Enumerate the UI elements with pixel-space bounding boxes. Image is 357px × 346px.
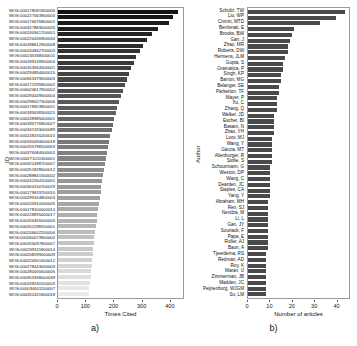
tick-mark: [85, 300, 86, 302]
bar: [58, 230, 95, 234]
bar: [248, 85, 279, 89]
bar: [58, 196, 100, 200]
bar: [248, 177, 270, 181]
bar: [58, 179, 102, 183]
bar: [58, 27, 158, 31]
panel-a-caption: a): [0, 323, 190, 333]
bar: [248, 96, 277, 100]
bar: [58, 77, 127, 81]
bar: [248, 114, 274, 118]
bar: [248, 142, 272, 146]
bar: [248, 102, 277, 106]
x-axis-ticks-b: 010203040: [247, 300, 350, 310]
bar: [248, 125, 274, 129]
bar: [58, 32, 152, 36]
bar: [58, 140, 109, 144]
bar: [248, 258, 266, 262]
bar: [248, 67, 283, 71]
tick-mark: [337, 300, 338, 302]
bar: [248, 240, 268, 244]
bar: [248, 171, 270, 175]
bar: [58, 156, 106, 160]
tick-label: 20: [289, 303, 295, 309]
bar: [248, 44, 288, 48]
tick-label: 10: [266, 303, 272, 309]
bar: [58, 15, 173, 19]
bar: [248, 137, 272, 141]
tick-label: 0: [55, 303, 58, 309]
bar: [248, 10, 345, 14]
bar: [248, 212, 268, 216]
bar: [248, 50, 288, 54]
bar: [248, 79, 281, 83]
bar: [248, 73, 281, 77]
bar: [248, 189, 270, 193]
bar: [248, 33, 292, 37]
bars-container-b: [248, 8, 349, 298]
bar: [58, 134, 110, 138]
bar: [58, 55, 136, 59]
bar: [58, 185, 101, 189]
bar: [58, 61, 134, 65]
bar: [58, 162, 105, 166]
bar-row: [58, 291, 183, 297]
bar: [248, 194, 270, 198]
tick-label: 200: [109, 303, 118, 309]
bar: [58, 173, 103, 177]
bar: [58, 21, 169, 25]
x-axis-label-b: Number of articles: [247, 311, 350, 317]
bar: [58, 168, 104, 172]
bar: [58, 94, 121, 98]
bar: [58, 128, 112, 132]
bar: [248, 281, 266, 285]
bar: [58, 190, 101, 194]
tick-label: 30: [311, 303, 317, 309]
bar: [248, 160, 272, 164]
tick-label: 100: [81, 303, 90, 309]
bar: [248, 264, 266, 268]
bar: [58, 213, 97, 217]
tick-mark: [113, 300, 114, 302]
bar: [248, 154, 272, 158]
bar: [248, 62, 283, 66]
bar: [248, 27, 294, 31]
category-label: Su, LM: [229, 292, 244, 298]
category-labels-a: WOS:000178091900005WOS:000227063900003WO…: [2, 7, 55, 299]
tick-mark: [170, 300, 171, 302]
bar: [248, 246, 268, 250]
bar: [58, 89, 123, 93]
bar: [248, 223, 268, 227]
bar: [58, 106, 117, 110]
bar: [58, 281, 90, 285]
bars-container-a: [58, 8, 183, 298]
bar: [58, 49, 140, 53]
bar: [58, 247, 93, 251]
bar: [248, 206, 268, 210]
bar: [58, 252, 93, 256]
bar: [58, 264, 92, 268]
tick-label: 400: [165, 303, 174, 309]
bar: [58, 292, 89, 296]
tick-mark: [269, 300, 270, 302]
bar-row: [248, 292, 349, 298]
bar: [58, 38, 147, 42]
bar: [58, 123, 113, 127]
bar: [248, 91, 279, 95]
bar: [58, 207, 98, 211]
bar: [58, 100, 119, 104]
figure-root: ID WOS:000178091900005WOS:00022706390000…: [0, 0, 357, 346]
tick-label: 40: [334, 303, 340, 309]
bar: [248, 119, 274, 123]
bar: [58, 111, 116, 115]
panel-a-times-cited: ID WOS:000178091900005WOS:00022706390000…: [0, 0, 190, 346]
bar: [58, 275, 91, 279]
bar: [248, 183, 270, 187]
tick-mark: [142, 300, 143, 302]
bar: [58, 72, 129, 76]
plot-area-b: [247, 7, 350, 299]
panel-b-number-of-articles: Author Schultz, TWLiu, WPCronin, MTDBenf…: [190, 0, 357, 346]
bar: [248, 229, 268, 233]
bar: [248, 235, 268, 239]
bar: [58, 235, 94, 239]
bar: [248, 287, 266, 291]
